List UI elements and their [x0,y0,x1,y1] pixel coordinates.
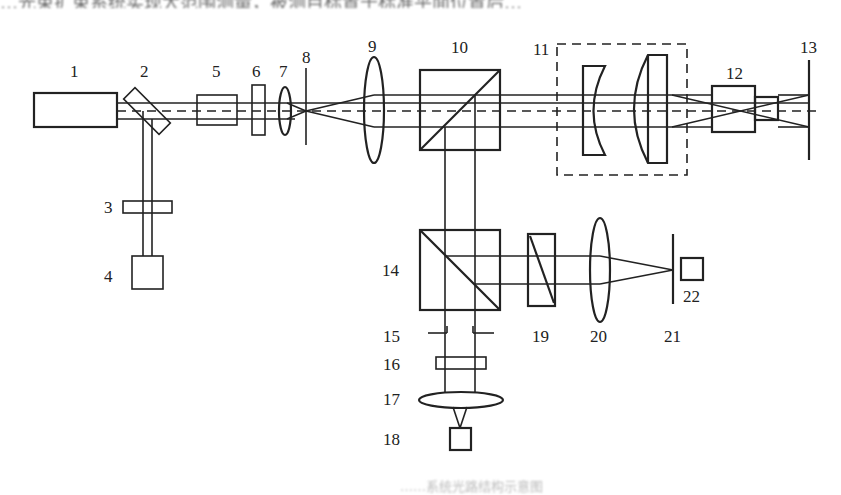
light-source-1 [34,93,117,127]
wave-plate-6 [252,85,265,135]
lens-20 [590,218,610,322]
reference-beam [143,111,152,256]
detector-4 [132,256,163,289]
label-9: 9 [368,37,377,56]
label-3: 3 [104,198,113,217]
label-1: 1 [70,62,79,81]
objective-12 [712,86,778,132]
label-15: 15 [383,327,400,346]
label-7: 7 [279,62,288,81]
label-12: 12 [726,64,743,83]
label-10: 10 [451,38,468,57]
beam-splitter-cube-14 [420,230,500,310]
label-11: 11 [533,40,549,59]
lens-7 [279,87,291,135]
label-4: 4 [104,267,113,286]
aperture-15 [428,326,494,333]
lens-9 [364,57,384,163]
label-19: 19 [532,327,549,346]
label-20: 20 [590,327,607,346]
beam-expander-11 [557,44,687,175]
label-21: 21 [664,327,681,346]
beam-splitter-cube-10 [420,70,500,150]
label-8: 8 [302,48,311,67]
label-22: 22 [683,287,700,306]
label-2: 2 [140,62,149,81]
polarizer-19 [528,234,555,306]
label-6: 6 [252,62,261,81]
detector-18 [450,428,471,450]
label-16: 16 [383,355,400,374]
label-5: 5 [212,62,221,81]
figure-caption: ……系统光路结构示意图 [400,476,543,495]
label-17: 17 [383,390,401,409]
detector-22 [681,258,703,280]
label-13: 13 [800,38,817,57]
label-14: 14 [382,261,400,280]
wave-plate-3 [123,201,172,213]
label-18: 18 [383,430,400,449]
lens-17 [419,392,503,408]
filter-16 [436,357,486,369]
element-5 [197,95,237,125]
